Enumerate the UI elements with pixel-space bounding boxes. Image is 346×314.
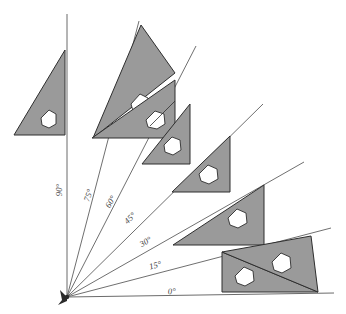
angle-diagram-container: 90° 75° 60° 45° 30° 15° 0° [0,0,346,314]
set-square-30-body [173,185,264,245]
set-square-90-body [14,50,65,135]
set-square-angle-diagram: 90° 75° 60° 45° 30° 15° 0° [0,0,346,314]
angle-label-30: 30° [137,234,154,250]
angle-label-45: 45° [122,210,138,226]
set-square-30 [173,185,264,245]
set-square-90 [14,50,65,135]
origin-vertex [58,290,69,305]
angle-label-group: 90° 75° 60° 45° 30° 15° 0° [54,183,177,296]
angle-label-75: 75° [81,187,94,202]
ray-line-0 [67,293,334,297]
angle-label-15: 15° [148,259,163,272]
angle-label-0: 0° [168,286,177,296]
angle-label-90: 90° [54,183,64,196]
angle-label-60: 60° [103,193,118,209]
origin-point [65,295,69,299]
